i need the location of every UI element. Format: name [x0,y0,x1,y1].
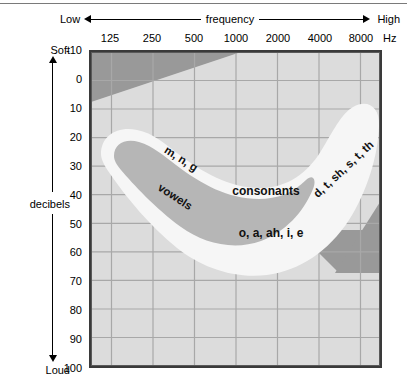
audiogram-svg: m, n, g vowels consonants o, a, ah, i, e… [91,52,380,366]
db-tick-50: 50 [70,218,82,229]
freq-tick-2000: 2000 [257,30,299,46]
audiogram-plot: m, n, g vowels consonants o, a, ah, i, e… [89,50,382,368]
db-tick-90: 90 [70,334,82,345]
frequency-tick-labels: 125 250 500 1000 2000 4000 8000 [89,30,382,46]
frequency-direction-bar: Low frequency High [60,11,400,27]
label-vowel-sounds: o, a, ah, i, e [239,226,304,240]
db-tick-0: 0 [76,73,82,84]
arrow-left-icon [84,15,91,23]
freq-tick-4000: 4000 [299,30,341,46]
frequency-high-label: High [377,11,400,27]
db-tick--10: -10 [66,45,82,56]
freq-tick-125: 125 [89,30,131,46]
db-tick-10: 10 [70,102,82,113]
label-consonants: consonants [232,184,300,198]
top-divider [0,3,407,4]
frequency-axis-title-text: frequency [201,13,259,25]
decibel-tick-labels: -10 0 10 20 30 40 50 60 70 80 90 100 [56,50,86,368]
freq-tick-250: 250 [131,30,173,46]
db-tick-40: 40 [70,189,82,200]
freq-tick-8000: 8000 [340,30,382,46]
db-tick-80: 80 [70,305,82,316]
db-tick-100: 100 [64,363,82,374]
arrow-right-icon [363,15,370,23]
db-tick-60: 60 [70,247,82,258]
freq-tick-1000: 1000 [215,30,257,46]
db-tick-70: 70 [70,276,82,287]
db-tick-20: 20 [70,131,82,142]
frequency-unit-label: Hz [383,30,396,46]
freq-tick-500: 500 [173,30,215,46]
db-tick-30: 30 [70,160,82,171]
